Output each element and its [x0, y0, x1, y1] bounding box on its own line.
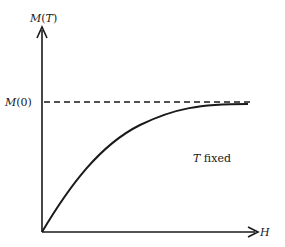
magnetization-diagram: M(T) M(0) H T fixed — [0, 0, 285, 247]
asymptote-label: M(0) — [4, 96, 32, 109]
y-axis-label: M(T) — [29, 12, 57, 25]
x-axis-label: H — [259, 226, 270, 239]
magnetization-curve — [42, 104, 248, 232]
condition-annotation: T fixed — [193, 152, 231, 165]
